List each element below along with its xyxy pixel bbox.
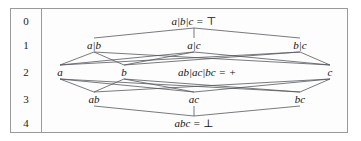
lattice-node-ab_c: a|b xyxy=(86,39,102,51)
lattice-node-b_c: b|c xyxy=(292,39,307,51)
lattice-edge-c-bc xyxy=(300,79,330,92)
lattice-edge-b_c-c xyxy=(300,52,330,65)
lattice-edge-bc-bottom xyxy=(194,106,300,116)
lattice-node-b: b xyxy=(120,66,128,78)
lattice-diagram-area: a|b|c = ⊤a|ba|cb|cabab|ac|bc = +cabacbca… xyxy=(42,9,347,132)
lattice-node-a_c: a|c xyxy=(186,39,201,51)
lattice-edge-top-ab_c xyxy=(94,28,194,38)
lattice-node-ab: ab xyxy=(88,93,101,105)
lattice-node-c: c xyxy=(327,66,334,78)
hasse-diagram-figure: 01234 a|b|c = ⊤a|ba|cb|cabab|ac|bc = +ca… xyxy=(0,0,361,141)
lattice-node-bottom: abc = ⊥ xyxy=(173,117,214,129)
rank-label-1: 1 xyxy=(11,39,41,51)
rank-label-4: 4 xyxy=(11,117,41,129)
rank-label-0: 0 xyxy=(11,15,41,27)
lattice-edge-top-b_c xyxy=(194,28,300,38)
lattice-edge-ab-bottom xyxy=(94,106,194,116)
rank-axis-column: 01234 xyxy=(11,9,42,132)
lattice-node-top: a|b|c = ⊤ xyxy=(170,15,217,27)
lattice-node-bc: bc xyxy=(294,93,306,105)
rank-label-2: 2 xyxy=(11,66,41,78)
lattice-node-a: a xyxy=(56,66,64,78)
rank-label-3: 3 xyxy=(11,93,41,105)
lattice-node-ac: ac xyxy=(188,93,200,105)
lattice-node-mid: ab|ac|bc = + xyxy=(177,66,237,78)
